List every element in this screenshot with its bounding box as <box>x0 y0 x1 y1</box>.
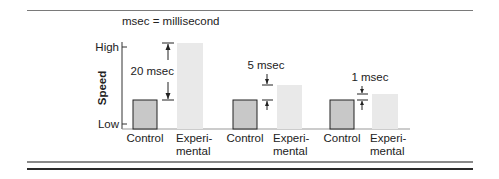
tick-label-high: High <box>95 41 119 53</box>
y-axis-label: Speed <box>96 71 108 106</box>
bar-control-1 <box>133 100 157 129</box>
arrow-down-icon <box>360 89 364 93</box>
bar-experimental-1 <box>177 43 203 129</box>
arrow-up-icon <box>166 44 171 50</box>
bar-control-2 <box>233 100 257 129</box>
diff-label-1: 20 msec <box>131 65 175 77</box>
diff-label-3: 1 msec <box>351 71 388 83</box>
arrow-down-icon <box>265 79 269 84</box>
tick-label-low: Low <box>98 118 120 130</box>
diff-label-2: 5 msec <box>247 59 284 71</box>
bar-control-3 <box>330 100 354 129</box>
x-label-exp-3a: Experi- <box>370 132 407 144</box>
x-label-exp-1b: mental <box>176 145 211 157</box>
arrow-up-icon <box>265 101 269 106</box>
x-label-control-1: Control <box>126 132 163 144</box>
x-label-exp-3b: mental <box>370 145 405 157</box>
bar-experimental-2 <box>277 85 302 129</box>
bottom-rule-gray <box>27 161 473 163</box>
arrow-down-icon <box>166 93 171 99</box>
x-label-exp-1a: Experi- <box>176 132 213 144</box>
x-label-exp-2b: mental <box>273 145 308 157</box>
bottom-rule-dark <box>27 168 473 170</box>
arrow-up-icon <box>360 101 364 105</box>
x-label-control-2: Control <box>226 132 263 144</box>
x-label-control-3: Control <box>323 132 360 144</box>
bar-experimental-3 <box>372 94 398 129</box>
x-label-exp-2a: Experi- <box>273 132 310 144</box>
speed-bar-chart: High Low Speed 20 msec 5 msec 1 msec Con… <box>0 0 499 179</box>
